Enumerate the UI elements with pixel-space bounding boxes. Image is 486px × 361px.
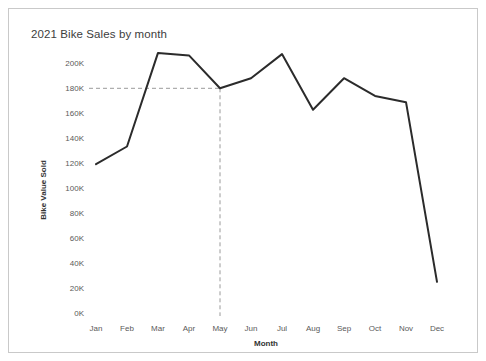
x-tick-jun: Jun <box>245 324 258 333</box>
y-tick-100k: 100K <box>65 184 84 193</box>
y-tick-80k: 80K <box>70 209 85 218</box>
chart-container: 200K 180K 160K 140K 120K 100K 80K 60K 40… <box>0 0 486 361</box>
x-tick-apr: Apr <box>183 324 196 333</box>
y-tick-60k: 60K <box>70 234 85 243</box>
x-tick-may: May <box>212 324 227 333</box>
x-tick-jul: Jul <box>277 324 287 333</box>
y-tick-140k: 140K <box>65 134 84 143</box>
y-axis-tick-labels: 200K 180K 160K 140K 120K 100K 80K 60K 40… <box>65 59 84 318</box>
y-tick-120k: 120K <box>65 159 84 168</box>
x-tick-mar: Mar <box>151 324 165 333</box>
y-tick-20k: 20K <box>70 284 85 293</box>
y-tick-160k: 160K <box>65 109 84 118</box>
x-tick-oct: Oct <box>369 324 382 333</box>
y-tick-180k: 180K <box>65 84 84 93</box>
y-axis-title: Bike Value Sold <box>39 160 48 220</box>
x-tick-feb: Feb <box>120 324 134 333</box>
y-tick-200k: 200K <box>65 59 84 68</box>
x-tick-sep: Sep <box>337 324 352 333</box>
y-tick-40k: 40K <box>70 259 85 268</box>
screenshot-root: 2021 Bike Sales by month 200K 180K 160K … <box>0 0 486 361</box>
x-axis-title: Month <box>254 339 278 348</box>
x-axis-tick-labels: Jan Feb Mar Apr May Jun Jul Aug Sep Oct … <box>90 324 445 333</box>
y-tick-0k: 0K <box>74 309 84 318</box>
x-tick-dec: Dec <box>430 324 444 333</box>
data-series-line <box>96 53 437 282</box>
x-tick-aug: Aug <box>306 324 320 333</box>
x-tick-nov: Nov <box>399 324 413 333</box>
reference-lines-group <box>89 88 220 316</box>
line-chart: 200K 180K 160K 140K 120K 100K 80K 60K 40… <box>0 0 486 361</box>
x-tick-jan: Jan <box>90 324 103 333</box>
